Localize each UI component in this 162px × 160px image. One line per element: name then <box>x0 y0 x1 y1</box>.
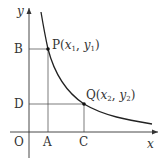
tick-label-A: A <box>42 135 52 149</box>
tick-label-D: D <box>14 97 24 111</box>
x-axis-arrow-icon <box>152 130 158 135</box>
tick-label-B: B <box>14 42 23 56</box>
x-axis-label: x <box>147 137 154 151</box>
point-P-label: P(x1, y1) <box>52 38 100 53</box>
tick-label-C: C <box>79 135 88 149</box>
hyperbola-curve <box>41 12 152 124</box>
point-P <box>46 47 50 51</box>
y-axis-label: y <box>16 4 24 18</box>
point-Q-label: Q(x2, y2) <box>86 88 135 103</box>
origin-label: O <box>14 135 24 149</box>
diagram-canvas: y x O B D A C P(x1, y1) Q(x2, y2) <box>0 0 162 160</box>
point-Q <box>82 102 86 106</box>
y-axis-arrow-icon <box>27 8 32 14</box>
